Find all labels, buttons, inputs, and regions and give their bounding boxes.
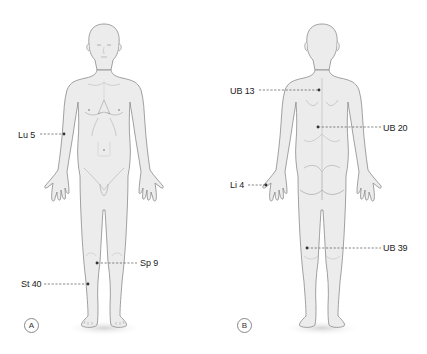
- label-ub20: UB 20: [383, 123, 408, 133]
- label-li4: Li 4: [230, 180, 244, 190]
- body-outline: [45, 70, 164, 327]
- label-lu5: Lu 5: [18, 130, 35, 140]
- label-st40: St 40: [21, 279, 42, 289]
- point-ub13: [318, 89, 321, 92]
- head-back: [307, 24, 337, 70]
- point-lu5: [63, 133, 66, 136]
- point-li4: [265, 184, 268, 187]
- floor-shadow: [282, 320, 362, 336]
- panel-badge-a: A: [24, 318, 39, 333]
- panel-badge-b: B: [237, 318, 252, 333]
- floor-shadow: [64, 320, 144, 336]
- point-sp9: [96, 262, 99, 265]
- figure-anterior: [45, 24, 164, 336]
- point-ub39: [306, 247, 309, 250]
- figure-canvas: [0, 0, 427, 354]
- label-sp9: Sp 9: [140, 258, 158, 268]
- acupuncture-points-diagram: Lu 5 Sp 9 St 40 UB 13 UB 20 Li 4 UB 39 A…: [0, 0, 427, 354]
- point-ub20: [317, 126, 320, 129]
- label-ub13: UB 13: [230, 86, 255, 96]
- label-ub39: UB 39: [383, 243, 408, 253]
- figure-posterior: [263, 24, 382, 336]
- point-st40: [87, 283, 90, 286]
